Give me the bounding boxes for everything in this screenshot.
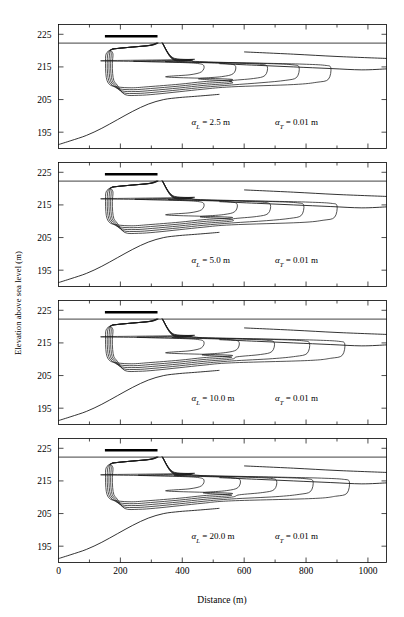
panel-3: 225215205195αL = 10.0 mαT = 0.01 m: [37, 301, 386, 425]
y-tick-label: 215: [37, 200, 52, 210]
y-tick-label: 215: [37, 476, 52, 486]
concentration-contour: [111, 181, 304, 231]
plume-trail-upper: [244, 52, 386, 59]
annotation-alpha-t: αT = 0.01 m: [275, 531, 318, 544]
concentration-contour: [107, 43, 236, 90]
plume-trail-upper: [244, 190, 386, 197]
x-tick-label: 1000: [358, 566, 377, 576]
concentration-contour: [111, 319, 310, 369]
concentration-contour: [111, 181, 337, 233]
annotation-alpha-t: αT = 0.01 m: [275, 393, 318, 406]
y-axis-label: Elevation above sea level (m): [13, 213, 23, 393]
concentration-contour: [109, 319, 275, 368]
annotation-alpha-t: αT = 0.01 m: [275, 117, 318, 130]
panel-2: 225215205195αL = 5.0 mαT = 0.01 m: [37, 163, 386, 287]
concentration-contour: [101, 457, 233, 502]
figure-contaminant-plume-panels: Elevation above sea level (m) 2252152051…: [0, 0, 404, 617]
x-tick-label: 200: [113, 566, 128, 576]
panel-4: 225215205195αL = 20.0 mαT = 0.01 m: [37, 439, 386, 563]
annotation-alpha-l: αL = 2.5 m: [192, 117, 230, 130]
y-tick-label: 225: [37, 168, 52, 178]
y-tick-label: 215: [37, 62, 52, 72]
concentration-contour: [107, 181, 237, 228]
concentration-contour: [101, 181, 233, 226]
plume-trail-lower: [219, 64, 386, 70]
y-tick-label: 195: [37, 404, 52, 414]
plot-canvas: 225215205195αL = 2.5 mαT = 0.01 m2252152…: [0, 0, 404, 617]
plume-trail-upper: [244, 466, 386, 473]
panel-1: 225215205195αL = 2.5 mαT = 0.01 m: [37, 25, 386, 149]
x-tick-label: 800: [299, 566, 314, 576]
concentration-contour: [111, 457, 314, 507]
plume-trail-upper: [244, 328, 386, 335]
x-tick-label: 0: [56, 566, 61, 576]
plume-trail-lower: [219, 202, 386, 208]
y-tick-label: 195: [37, 266, 52, 276]
y-tick-label: 205: [37, 371, 52, 381]
concentration-contour: [111, 43, 300, 93]
y-axis-label-container: Elevation above sea level (m): [0, 0, 22, 617]
annotation-alpha-l: αL = 10.0 m: [192, 393, 235, 406]
concentration-contour: [101, 43, 233, 88]
concentration-contour: [111, 457, 350, 509]
x-tick-label: 400: [175, 566, 190, 576]
y-tick-label: 215: [37, 338, 52, 348]
y-tick-label: 225: [37, 306, 52, 316]
y-tick-label: 205: [37, 95, 52, 105]
concentration-contour: [101, 319, 233, 364]
y-tick-label: 225: [37, 30, 52, 40]
y-tick-label: 205: [37, 509, 52, 519]
y-tick-label: 205: [37, 233, 52, 243]
y-tick-label: 225: [37, 444, 52, 454]
y-tick-label: 195: [37, 542, 52, 552]
x-axis-label: Distance (m): [58, 595, 386, 605]
y-tick-label: 195: [37, 128, 52, 138]
annotation-alpha-l: αL = 5.0 m: [192, 255, 230, 268]
x-tick-label: 600: [237, 566, 252, 576]
concentration-contour: [107, 457, 240, 504]
annotation-alpha-t: αT = 0.01 m: [275, 255, 318, 268]
concentration-contour: [111, 43, 331, 95]
concentration-contour: [107, 319, 239, 366]
annotation-alpha-l: αL = 20.0 m: [192, 531, 235, 544]
